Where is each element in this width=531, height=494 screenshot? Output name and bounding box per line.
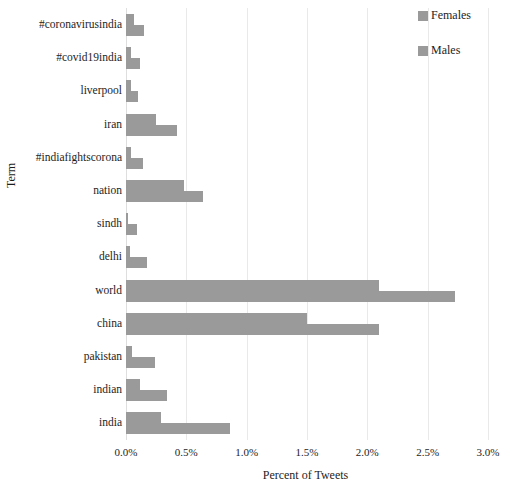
bar-males-china[interactable]	[126, 324, 379, 335]
bar-group	[126, 213, 488, 235]
y-tick-label: #covid19india	[0, 51, 122, 63]
bar-females-delhi[interactable]	[126, 246, 130, 257]
legend-item-males[interactable]: Males	[418, 43, 471, 58]
bar-group	[126, 80, 488, 102]
bar-chart: Term #coronavirusindia#covid19indialiver…	[0, 0, 531, 494]
y-tick-label: sindh	[0, 217, 122, 229]
x-tick-label: 0.0%	[115, 446, 138, 458]
y-tick-label: china	[0, 317, 122, 329]
bar-females-iran[interactable]	[126, 114, 156, 125]
bar-males-hash-indiafightscorona[interactable]	[126, 158, 143, 169]
bar-group	[126, 147, 488, 169]
gridline	[488, 8, 489, 440]
y-tick-label: world	[0, 284, 122, 296]
bar-females-hash-coronavirusindia[interactable]	[126, 14, 134, 25]
bar-males-hash-coronavirusindia[interactable]	[126, 25, 144, 36]
bar-males-pakistan[interactable]	[126, 357, 155, 368]
x-tick-label: 2.5%	[416, 446, 439, 458]
legend-label: Males	[431, 43, 460, 58]
y-tick-label: indian	[0, 383, 122, 395]
bar-females-nation[interactable]	[126, 180, 184, 191]
x-tick-label: 1.0%	[235, 446, 258, 458]
legend-swatch-icon	[418, 46, 428, 56]
legend-swatch-icon	[418, 11, 428, 21]
bar-females-hash-covid19india[interactable]	[126, 47, 131, 58]
y-tick-label: delhi	[0, 250, 122, 262]
bar-group	[126, 379, 488, 401]
bar-females-indian[interactable]	[126, 379, 140, 390]
x-tick-label: 1.5%	[296, 446, 319, 458]
bar-males-hash-covid19india[interactable]	[126, 58, 140, 69]
x-tick-label: 2.0%	[356, 446, 379, 458]
legend-item-females[interactable]: Females	[418, 8, 471, 23]
bar-group	[126, 180, 488, 202]
y-tick-label: liverpool	[0, 84, 122, 96]
y-tick-label: #indiafightscorona	[0, 151, 122, 163]
bar-males-nation[interactable]	[126, 191, 203, 202]
bar-females-hash-indiafightscorona[interactable]	[126, 147, 131, 158]
bar-group	[126, 313, 488, 335]
y-tick-label: nation	[0, 184, 122, 196]
bar-group	[126, 412, 488, 434]
bar-females-world[interactable]	[126, 280, 379, 291]
y-tick-label: pakistan	[0, 350, 122, 362]
bar-males-india[interactable]	[126, 423, 230, 434]
bar-females-china[interactable]	[126, 313, 307, 324]
bar-females-pakistan[interactable]	[126, 346, 132, 357]
bar-males-sindh[interactable]	[126, 224, 137, 235]
bar-group	[126, 280, 488, 302]
bar-females-india[interactable]	[126, 412, 161, 423]
bar-males-liverpool[interactable]	[126, 91, 138, 102]
bar-group	[126, 114, 488, 136]
y-tick-label: iran	[0, 118, 122, 130]
legend: FemalesMales	[418, 8, 471, 78]
bar-males-world[interactable]	[126, 291, 455, 302]
x-axis-title-wrap: Percent of Tweets	[0, 468, 531, 483]
bar-group	[126, 346, 488, 368]
x-tick-label: 0.5%	[175, 446, 198, 458]
bar-females-liverpool[interactable]	[126, 80, 131, 91]
x-axis-title: Percent of Tweets	[263, 468, 349, 483]
y-tick-label: #coronavirusindia	[0, 18, 122, 30]
legend-label: Females	[431, 8, 471, 23]
x-tick-label: 3.0%	[477, 446, 500, 458]
bar-males-indian[interactable]	[126, 390, 167, 401]
bar-group	[126, 246, 488, 268]
bar-males-delhi[interactable]	[126, 257, 147, 268]
y-tick-label: india	[0, 416, 122, 428]
bar-females-sindh[interactable]	[126, 213, 128, 224]
bar-males-iran[interactable]	[126, 125, 177, 136]
